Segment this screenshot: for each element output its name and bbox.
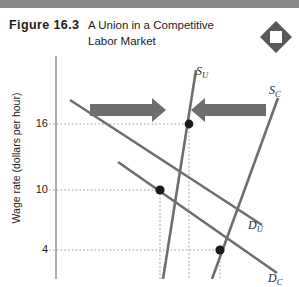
y-axis-title: Wage rate (dollars per hour) [10, 78, 22, 238]
y-tick-label-4: 4 [26, 243, 48, 255]
demand-increase-arrow [90, 98, 166, 122]
equilibrium-dot-union [185, 120, 194, 129]
curve-label-supply-competitive: SC [269, 83, 281, 99]
curve-label-demand-competitive: DC [268, 271, 282, 287]
figure-number: Figure 16.3 [9, 18, 79, 32]
curve-supply-union [163, 70, 196, 279]
equilibrium-dot-lower [215, 245, 224, 254]
header-rule-bar [0, 0, 299, 8]
curve-label-supply-union: SU [196, 64, 208, 80]
diamond-icon [259, 20, 293, 54]
figure-header: Figure 16.3 A Union in a Competitive Lab… [0, 13, 299, 56]
figure-title-line-2: Labor Market [88, 35, 156, 47]
chart-plot-area: Wage rate (dollars per hour) 16 10 4 SU … [0, 56, 299, 279]
figure-title: A Union in a Competitive Labor Market [88, 18, 243, 49]
y-tick-label-16: 16 [26, 117, 48, 129]
figure-title-line-1: A Union in a Competitive [88, 19, 214, 31]
y-tick-label-10: 10 [26, 183, 48, 195]
curve-demand-union [70, 100, 262, 225]
supply-decrease-arrow [191, 98, 266, 122]
curve-label-demand-union: DU [248, 218, 263, 234]
equilibrium-dot-initial [155, 185, 164, 194]
